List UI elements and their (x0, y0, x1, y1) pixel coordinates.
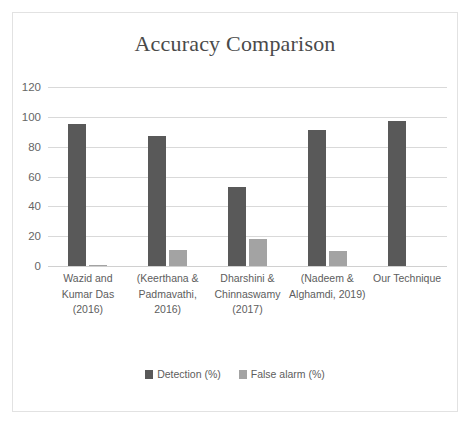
x-axis-category-label: Our Technique (359, 271, 455, 287)
y-axis-tick-label: 20 (28, 230, 41, 242)
gridline (48, 266, 447, 267)
bar-detection (148, 136, 166, 266)
y-axis-tick-label: 40 (28, 200, 41, 212)
bar-group (128, 87, 208, 266)
legend-label: False alarm (%) (251, 368, 325, 380)
y-axis-tick-label: 80 (28, 141, 41, 153)
chart-legend: Detection (%)False alarm (%) (13, 368, 457, 380)
bar-false-alarm (169, 250, 187, 266)
legend-item[interactable]: False alarm (%) (239, 368, 325, 380)
chart-container: Accuracy Comparison 020406080100120 Wazi… (12, 12, 458, 412)
bar-false-alarm (89, 265, 107, 266)
x-axis-category-labels: Wazid andKumar Das(2016)(Keerthana &Padm… (48, 271, 447, 351)
bar-detection (68, 124, 86, 266)
legend-item[interactable]: Detection (%) (145, 368, 221, 380)
chart-title: Accuracy Comparison (13, 31, 457, 57)
legend-swatch-icon (145, 370, 153, 379)
legend-label: Detection (%) (157, 368, 221, 380)
bar-group (367, 87, 447, 266)
bar-group (287, 87, 367, 266)
bar-group (48, 87, 128, 266)
y-axis-tick-label: 100 (22, 111, 41, 123)
y-axis-tick-label: 60 (28, 171, 41, 183)
x-axis-category-label-line: Alghamdi, 2019) (279, 287, 375, 303)
bar-detection (388, 121, 406, 266)
bar-detection (228, 187, 246, 266)
x-axis-category-label-line: (2017) (200, 302, 296, 318)
y-axis-tick-label: 120 (22, 81, 41, 93)
bar-false-alarm (249, 239, 267, 266)
legend-swatch-icon (239, 370, 247, 379)
bar-false-alarm (329, 251, 347, 266)
bar-group (208, 87, 288, 266)
plot-area: 020406080100120 (48, 87, 447, 266)
bar-detection (308, 130, 326, 266)
x-axis-category-label-line: Our Technique (359, 271, 455, 287)
